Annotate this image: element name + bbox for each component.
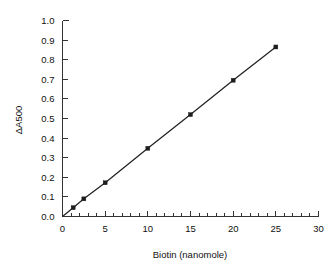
y-tick-label: 0.4	[41, 133, 54, 144]
y-tick-label: 0.9	[41, 35, 54, 46]
y-tick-label: 0.8	[41, 54, 54, 65]
y-tick-label: 0.6	[41, 93, 54, 104]
standard-curve-chart: 0.00.10.20.30.40.50.60.70.80.91.0 051015…	[0, 0, 333, 268]
data-point-marker	[189, 113, 193, 117]
x-axis-title: Biotin (nanomole)	[153, 249, 227, 260]
x-tick-label: 20	[228, 223, 239, 234]
data-point-marker	[146, 146, 150, 150]
x-tick-label: 15	[185, 223, 196, 234]
y-axis-title: ΔA500	[13, 106, 24, 135]
x-tick-label: 30	[313, 223, 324, 234]
x-tick-label: 0	[60, 223, 65, 234]
y-tick-label: 0.0	[41, 211, 54, 222]
y-tick-label: 0.1	[41, 191, 54, 202]
x-tick-label: 10	[143, 223, 154, 234]
y-tick-label: 0.2	[41, 172, 54, 183]
x-tick-label: 25	[271, 223, 282, 234]
data-point-marker	[103, 181, 107, 185]
data-point-marker	[71, 206, 75, 210]
data-point-marker	[274, 45, 278, 49]
x-tick-label: 5	[103, 223, 108, 234]
chart-container: 0.00.10.20.30.40.50.60.70.80.91.0 051015…	[0, 0, 333, 268]
y-tick-label: 0.5	[41, 113, 54, 124]
data-point-marker	[82, 197, 86, 201]
y-tick-label: 1.0	[41, 15, 54, 26]
y-tick-label: 0.7	[41, 74, 54, 85]
data-point-marker	[231, 78, 235, 82]
y-tick-label: 0.3	[41, 152, 54, 163]
